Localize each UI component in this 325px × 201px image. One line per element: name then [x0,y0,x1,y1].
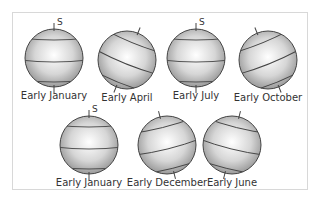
planet-early-october [229,28,309,95]
south-pole-label: S [57,17,63,27]
planet-label: Early October [234,92,302,103]
planet-label: Early January [21,90,87,101]
planet-label: Early January [56,177,122,188]
planet-early-april [86,28,166,95]
planet-early-july [162,23,230,93]
planet-early-december [129,111,206,179]
planet-label: Early April [101,92,152,103]
south-pole-label: S [199,17,205,27]
planet-label: Early July [173,90,219,101]
planet-early-january [20,23,88,93]
planet-label: Early December [127,177,207,188]
planet-label: Early June [207,177,257,188]
planet-early-january [55,110,123,180]
planet-early-june [193,111,270,179]
south-pole-label: S [92,104,98,114]
